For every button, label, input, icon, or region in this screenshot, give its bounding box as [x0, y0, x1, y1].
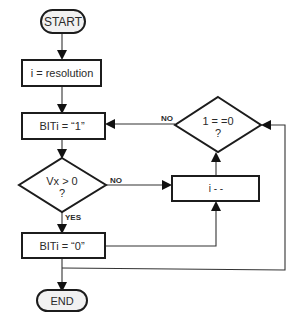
- node-end: END: [37, 290, 87, 311]
- arrowhead-icon: [105, 119, 115, 129]
- node-set-zero: BITi = “0”: [22, 233, 105, 258]
- flowchart: START i = resolution BITi = “1” Vx > 0 ?…: [0, 0, 300, 321]
- set-one-label: BITi = “1”: [39, 120, 84, 132]
- arrowhead-icon: [57, 50, 67, 60]
- arrowhead-icon: [211, 152, 221, 162]
- node-start: START: [41, 10, 85, 33]
- set-zero-label: BITi = “0”: [39, 240, 84, 252]
- decrement-label: i - -: [209, 183, 223, 194]
- test-vx-label-line1: Vx > 0: [46, 175, 78, 187]
- test-i-label-line2: ?: [215, 127, 221, 139]
- node-test-vx: Vx > 0 ?: [19, 158, 106, 212]
- connector-bit0-decrement: [105, 209, 216, 246]
- node-decrement: i - -: [172, 176, 259, 201]
- test-vx-label-line2: ?: [59, 187, 65, 199]
- arrowhead-icon: [162, 180, 172, 190]
- start-label: START: [44, 15, 83, 29]
- node-test-i: 1 = =0 ?: [175, 97, 261, 152]
- edge-label-vx-yes: YES: [65, 213, 82, 222]
- edge-label-testi-no: NO: [161, 114, 173, 123]
- init-label: i = resolution: [31, 67, 94, 79]
- arrowhead-icon: [211, 201, 221, 211]
- node-set-one: BITi = “1”: [22, 113, 105, 139]
- node-init: i = resolution: [22, 60, 101, 86]
- end-label: END: [50, 295, 73, 307]
- edge-label-vx-no: NO: [110, 176, 122, 185]
- test-i-label-line1: 1 = =0: [202, 115, 233, 127]
